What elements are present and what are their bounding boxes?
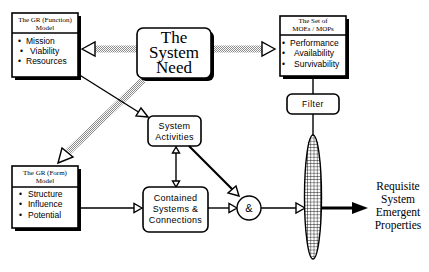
activities-line-2: Activities [155, 132, 194, 142]
form-model-box: The GR (Form) Model • Structure • Influe… [12, 166, 81, 231]
moe-mop-box: The Set of MOEs / MOPs • Performance • A… [280, 16, 349, 79]
output-line-1: Requisite [376, 180, 419, 193]
form-model-title-1: The GR (Form) [23, 169, 68, 177]
filter-label: Filter [302, 99, 324, 109]
function-item-resources: Resources [26, 56, 67, 66]
activities-to-and-line [189, 146, 234, 191]
system-need-box: The System Need [137, 28, 214, 81]
contained-line-1: Contained [154, 193, 198, 203]
system-need-diagram: The GR (Function) Model • Mission • Viab… [0, 0, 429, 272]
function-model-title-2: Model [36, 24, 54, 32]
output-line-2: System [381, 193, 415, 206]
bullet: • [18, 56, 21, 66]
filter-box: Filter [287, 94, 339, 114]
function-item-mission: Mission [26, 36, 55, 46]
and-node: & [237, 196, 261, 220]
output-label: Requisite System Emergent Properties [375, 180, 422, 232]
synthesis-lens [305, 135, 322, 259]
contained-line-2: Systems & [153, 204, 199, 214]
bullet: • [18, 36, 21, 46]
bullet: • [282, 38, 285, 48]
arrowhead-down [173, 181, 180, 187]
function-item-viability: Viability [30, 46, 60, 56]
arrowhead-to-and-left [229, 204, 237, 213]
arrowhead-to-contained [134, 204, 142, 213]
moe-title-1: The Set of [298, 17, 328, 25]
system-need-line-3: Need [156, 58, 192, 77]
arrowhead-to-activities [136, 108, 148, 117]
function-model-title-1: The GR (Function) [18, 16, 72, 24]
form-item-potential: Potential [28, 210, 61, 220]
moe-item-performance: Performance [290, 38, 339, 48]
bullet: • [282, 48, 285, 58]
contained-line-3: Connections [149, 215, 203, 225]
arrowhead-to-lens-left [296, 203, 305, 213]
output-arrowhead [352, 202, 368, 214]
moe-item-availability: Availability [294, 48, 335, 58]
output-line-4: Properties [375, 219, 422, 232]
moe-item-survivability: Survivability [294, 59, 340, 69]
form-model-title-2: Model [36, 177, 54, 185]
form-item-structure: Structure [28, 189, 63, 199]
contained-systems-box: Contained Systems & Connections [143, 187, 208, 232]
arrowhead-to-function [82, 42, 95, 56]
moe-title-2: MOEs / MOPs [292, 25, 334, 33]
bullet: • [19, 199, 22, 209]
activities-line-1: System [159, 121, 191, 131]
and-label: & [245, 202, 253, 214]
arrowhead-up [173, 147, 180, 153]
bullet: • [282, 59, 285, 69]
arrowhead-to-moe [262, 42, 275, 56]
output-line-3: Emergent [376, 206, 421, 219]
bullet: • [19, 189, 22, 199]
bullet: • [20, 46, 23, 56]
form-item-influence: Influence [28, 199, 63, 209]
bullet: • [19, 210, 22, 220]
system-activities-box: System Activities [148, 116, 201, 146]
function-model-box: The GR (Function) Model • Mission • Viab… [12, 13, 81, 80]
